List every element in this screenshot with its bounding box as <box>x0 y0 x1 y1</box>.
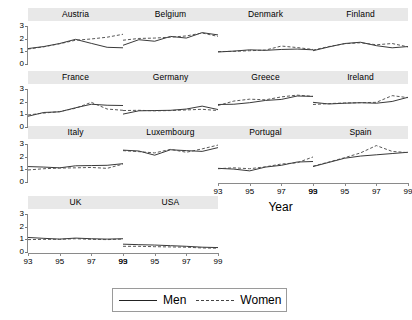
panel-ireland: Ireland <box>313 71 408 127</box>
series-line-men <box>218 96 313 104</box>
x-axis-tick-label: 97 <box>182 258 191 266</box>
x-axis: 93959799 <box>218 183 313 199</box>
panel-title-strip: Italy <box>28 126 123 139</box>
legend-swatch-men <box>119 300 157 301</box>
x-axis-title: Year <box>268 201 292 213</box>
y-axis-tick-label: 0 <box>20 60 24 68</box>
x-axis-tick-mark <box>218 183 219 186</box>
panel-uk: UK <box>28 196 123 252</box>
x-axis-tick-label: 95 <box>245 188 254 196</box>
panel-title-strip: UK <box>28 196 123 209</box>
panel-title-strip: Austria <box>28 8 123 21</box>
panel-spain: Spain <box>313 126 408 182</box>
x-axis-tick-label: 93 <box>214 188 223 196</box>
x-axis-line <box>313 183 408 184</box>
y-axis-tick-label: 1 <box>20 165 24 173</box>
y-axis-tick-label: 0 <box>20 123 24 131</box>
x-axis-tick-mark <box>91 253 92 256</box>
x-axis-line <box>28 253 123 254</box>
x-axis-tick-label: 97 <box>277 188 286 196</box>
plot-area <box>313 21 408 64</box>
x-axis-tick-label: 95 <box>150 258 159 266</box>
panel-title: Italy <box>67 128 83 137</box>
panel-title: France <box>62 73 89 82</box>
series-line-women <box>218 157 313 169</box>
series-line-men <box>313 152 408 166</box>
plot-area <box>28 84 123 127</box>
series-line-women <box>123 145 218 153</box>
x-axis-tick-mark <box>281 183 282 186</box>
panel-title: Greece <box>251 73 279 82</box>
legend-item-women[interactable]: Women <box>196 294 281 306</box>
legend: MenWomen <box>112 288 287 312</box>
panel-belgium: Belgium <box>123 8 218 64</box>
panel-title: Belgium <box>155 10 186 19</box>
y-axis-tick-mark <box>25 182 28 183</box>
plot-area <box>123 84 218 127</box>
y-axis-line <box>27 89 28 127</box>
panel-title-strip: Germany <box>123 71 218 84</box>
y-axis-tick-label: 0 <box>20 248 24 256</box>
x-axis-tick-mark <box>345 183 346 186</box>
legend-swatch-women <box>196 300 234 301</box>
series-line-men <box>28 164 123 168</box>
series-line-men <box>28 104 123 116</box>
y-axis-tick-label: 1 <box>20 235 24 243</box>
y-axis-line <box>27 214 28 252</box>
x-axis-tick-mark <box>123 253 124 256</box>
panel-title-strip: USA <box>123 196 218 209</box>
series-line-women <box>313 43 408 50</box>
panel-portugal: Portugal <box>218 126 313 182</box>
x-axis-tick-mark <box>28 253 29 256</box>
plot-area <box>123 209 218 252</box>
y-axis: 0123 <box>6 84 28 127</box>
series-line-men <box>123 33 218 46</box>
series-line-men <box>28 39 123 48</box>
x-axis-line <box>218 183 313 184</box>
x-axis: 93959799 <box>123 253 218 269</box>
y-axis-line <box>27 144 28 182</box>
plot-area <box>218 139 313 182</box>
plot-area <box>28 139 123 182</box>
x-axis-tick-mark <box>313 183 314 186</box>
x-axis-tick-label: 97 <box>372 188 381 196</box>
panel-title: Austria <box>62 10 89 19</box>
plot-area <box>313 139 408 182</box>
x-axis-tick-mark <box>408 183 409 186</box>
legend-label: Women <box>240 294 281 306</box>
panel-denmark: Denmark <box>218 8 313 64</box>
y-axis-tick-label: 1 <box>20 110 24 118</box>
x-axis-tick-mark <box>250 183 251 186</box>
y-axis-tick-label: 0 <box>20 178 24 186</box>
plot-area <box>28 21 123 64</box>
panel-luxembourg: Luxembourg <box>123 126 218 182</box>
legend-label: Men <box>163 294 186 306</box>
x-axis-tick-label: 93 <box>119 258 128 266</box>
plot-area <box>313 84 408 127</box>
panel-title-strip: Belgium <box>123 8 218 21</box>
panel-title: Denmark <box>248 10 283 19</box>
panel-title: Finland <box>346 10 375 19</box>
x-axis-tick-label: 97 <box>87 258 96 266</box>
panel-germany: Germany <box>123 71 218 127</box>
legend-item-men[interactable]: Men <box>119 294 186 306</box>
series-line-men <box>218 162 313 171</box>
panel-title: Spain <box>349 128 371 137</box>
x-axis-tick-label: 99 <box>404 188 412 196</box>
x-axis: 93959799 <box>28 253 123 269</box>
panel-france: France <box>28 71 123 127</box>
panel-title-strip: Finland <box>313 8 408 21</box>
y-axis-tick-label: 2 <box>20 35 24 43</box>
panel-title-strip: Spain <box>313 126 408 139</box>
panel-usa: USA <box>123 196 218 252</box>
x-axis-tick-label: 99 <box>214 258 223 266</box>
x-axis-tick-label: 93 <box>309 188 318 196</box>
x-axis: 93959799 <box>313 183 408 199</box>
x-axis-tick-label: 95 <box>340 188 349 196</box>
y-axis-tick-label: 2 <box>20 223 24 231</box>
x-axis-tick-mark <box>155 253 156 256</box>
y-axis: 0123 <box>6 21 28 64</box>
panel-greece: Greece <box>218 71 313 127</box>
panel-title-strip: Ireland <box>313 71 408 84</box>
panel-title: Portugal <box>249 128 281 137</box>
